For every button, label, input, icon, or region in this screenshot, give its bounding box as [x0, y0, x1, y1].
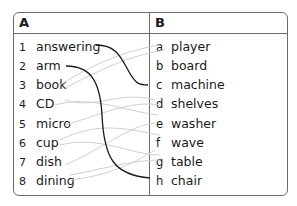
item-letter: e [156, 117, 167, 132]
list-item-a[interactable]: 8 dining [19, 173, 75, 189]
item-letter: b [156, 59, 167, 74]
column-b-header: B [155, 15, 165, 30]
item-letter: g [156, 155, 167, 170]
item-letter: d [156, 97, 167, 112]
item-word: dish [36, 154, 62, 169]
item-number: 6 [19, 136, 32, 151]
item-word: board [171, 58, 207, 73]
item-letter: f [156, 136, 167, 151]
item-word: arm [36, 58, 61, 73]
item-number: 3 [19, 78, 32, 93]
list-item-b[interactable]: h chair [156, 173, 202, 189]
list-item-b[interactable]: e washer [156, 116, 216, 132]
header-divider [14, 33, 287, 34]
item-word: cup [36, 135, 59, 150]
item-word: dining [36, 173, 75, 188]
item-number: 1 [19, 40, 32, 55]
item-number: 8 [19, 174, 32, 189]
item-letter: a [156, 40, 167, 55]
item-word: book [36, 77, 66, 92]
list-item-b[interactable]: g table [156, 154, 203, 170]
item-number: 7 [19, 155, 32, 170]
item-word: wave [171, 135, 204, 150]
matching-table: A B 1 answering 2 arm 3 book 4 CD 5 micr… [13, 12, 288, 196]
list-item-a[interactable]: 7 dish [19, 154, 62, 170]
item-word: micro [36, 116, 71, 131]
list-item-b[interactable]: b board [156, 58, 207, 74]
column-divider [149, 13, 150, 195]
item-number: 5 [19, 117, 32, 132]
item-word: CD [36, 96, 54, 111]
item-word: answering [36, 39, 100, 54]
item-word: table [171, 154, 203, 169]
item-word: machine [171, 77, 225, 92]
list-item-b[interactable]: d shelves [156, 96, 218, 112]
item-word: shelves [171, 96, 218, 111]
list-item-b[interactable]: a player [156, 39, 210, 55]
list-item-b[interactable]: c machine [156, 77, 225, 93]
list-item-b[interactable]: f wave [156, 135, 204, 151]
item-word: player [171, 39, 210, 54]
column-a-header: A [19, 15, 29, 30]
item-word: washer [171, 116, 216, 131]
list-item-a[interactable]: 5 micro [19, 116, 71, 132]
list-item-a[interactable]: 1 answering [19, 39, 100, 55]
list-item-a[interactable]: 3 book [19, 77, 66, 93]
item-number: 4 [19, 97, 32, 112]
item-word: chair [171, 173, 202, 188]
item-letter: h [156, 174, 167, 189]
list-item-a[interactable]: 2 arm [19, 58, 61, 74]
item-number: 2 [19, 59, 32, 74]
list-item-a[interactable]: 4 CD [19, 96, 54, 112]
item-letter: c [156, 78, 167, 93]
list-item-a[interactable]: 6 cup [19, 135, 59, 151]
